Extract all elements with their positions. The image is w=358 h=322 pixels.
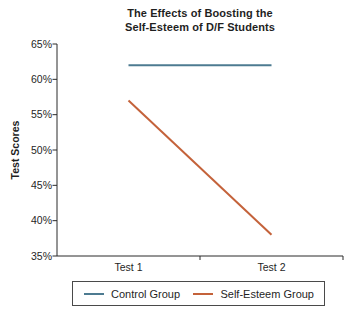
self-esteem-group-line-swatch xyxy=(193,293,213,295)
legend-item-control-group: Control Group xyxy=(84,288,180,300)
y-tick-label: 35% xyxy=(18,250,52,262)
legend-label-self-esteem-group: Self-Esteem Group xyxy=(220,288,314,300)
x-tick-label: Test 1 xyxy=(94,261,164,273)
x-tick-label: Test 2 xyxy=(237,261,307,273)
plot-area xyxy=(0,0,358,322)
chart-page: The Effects of Boosting the Self-Esteem … xyxy=(0,0,358,322)
control-group-line-swatch xyxy=(84,293,104,295)
y-tick-label: 65% xyxy=(18,38,52,50)
y-tick-label: 60% xyxy=(18,73,52,85)
y-tick-label: 50% xyxy=(18,144,52,156)
series-line-self-esteem-group xyxy=(129,101,272,235)
legend-item-self-esteem-group: Self-Esteem Group xyxy=(193,288,314,300)
y-tick-label: 45% xyxy=(18,179,52,191)
y-tick-label: 40% xyxy=(18,214,52,226)
legend: Control Group Self-Esteem Group xyxy=(72,281,325,306)
y-tick-label: 55% xyxy=(18,108,52,120)
axes xyxy=(53,44,344,260)
legend-label-control-group: Control Group xyxy=(111,288,180,300)
